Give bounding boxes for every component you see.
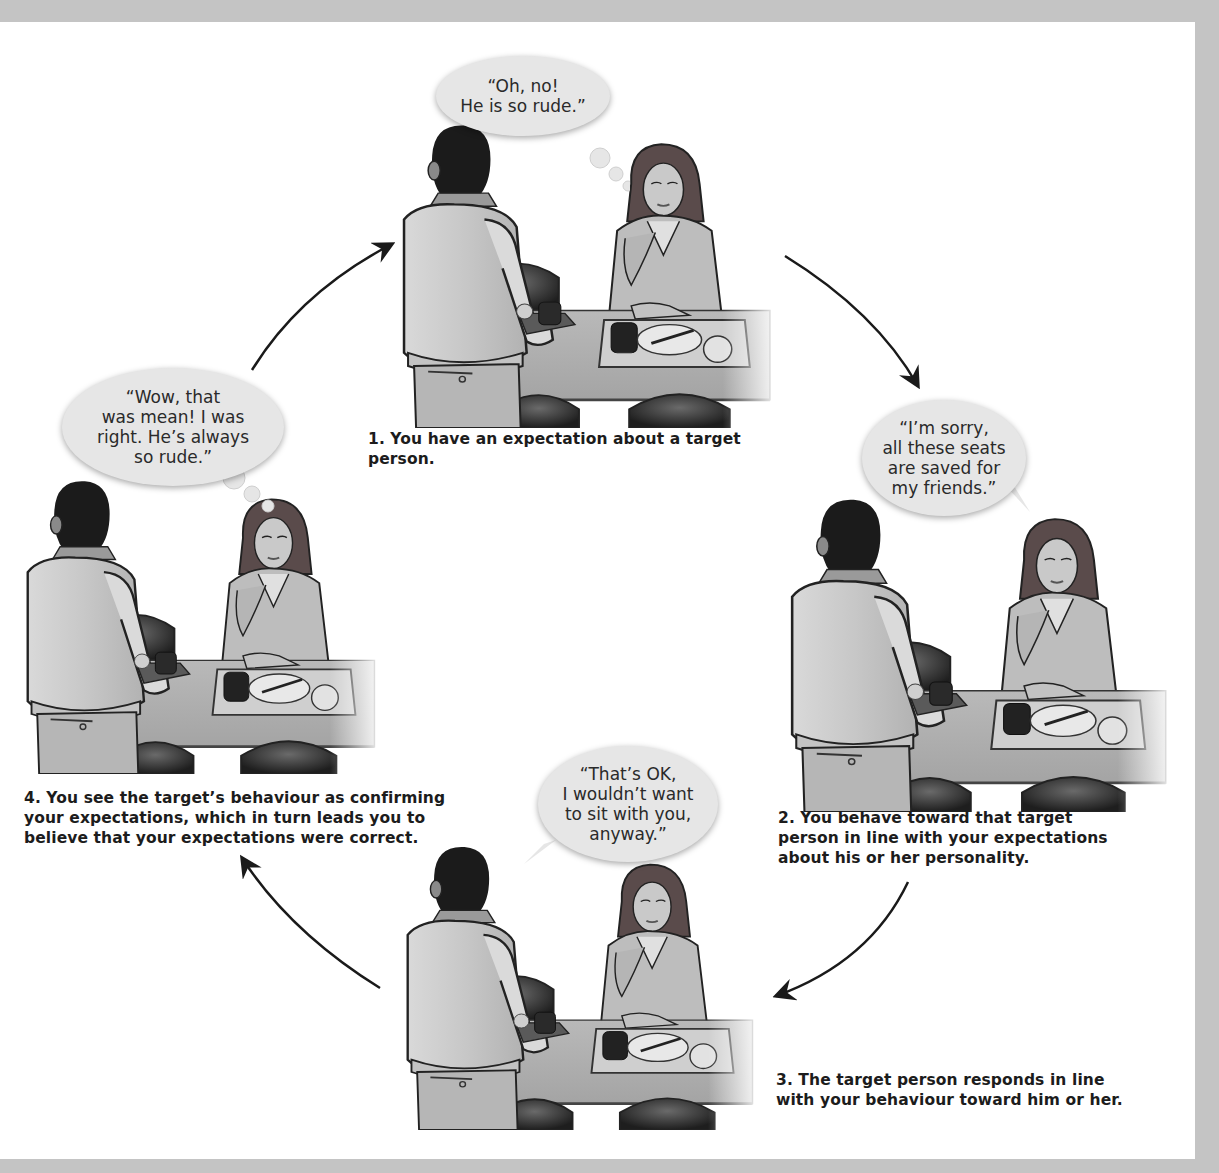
curved-arrow-icon [785,256,918,386]
curved-arrow-icon [242,858,380,988]
curved-arrow-icon [776,882,908,996]
image-frame-right [1195,0,1219,1173]
image-frame-top [0,0,1219,22]
cycle-arrows [0,22,1195,1159]
image-frame-bottom [0,1159,1219,1173]
diagram-canvas: “Oh, no! He is so rude.” 1. You have an … [0,22,1195,1159]
curved-arrow-icon [252,244,392,370]
